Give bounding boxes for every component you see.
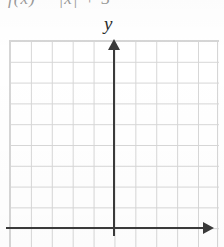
y-axis-line: [113, 48, 115, 236]
cropped-formula-strip: f(x) = |x| + 3: [0, 0, 224, 11]
y-axis-arrowhead-icon: [108, 39, 120, 50]
cropped-formula-text: f(x) = |x| + 3: [8, 0, 111, 9]
grid-right-border: [217, 40, 218, 247]
x-axis-arrowhead-icon: [203, 222, 214, 234]
y-axis-label: y: [104, 14, 112, 33]
graph-figure: f(x) = |x| + 3 y: [0, 0, 224, 247]
x-axis-line: [6, 227, 207, 229]
